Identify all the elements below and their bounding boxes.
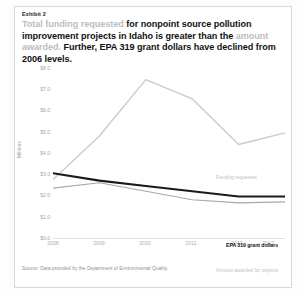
series-svg: [53, 68, 285, 238]
series-label-epa-grant: EPA 319 grant dollars: [226, 242, 278, 248]
y-axis-tick: $6.0: [24, 107, 50, 113]
y-axis-tick: $5.0: [24, 129, 50, 135]
y-axis-tick: $8.0: [24, 65, 50, 71]
series-line-amount-awarded: [53, 183, 285, 203]
x-axis-tick: 2008: [36, 240, 70, 246]
series-line-funding-requested: [53, 80, 285, 180]
series-label-funding-requested: Funding requested: [216, 174, 257, 180]
x-axis-tick: 2010: [128, 240, 162, 246]
headline-segment-funding-requested: Total funding requested: [22, 19, 124, 29]
y-axis-title: Millions: [17, 141, 22, 158]
exhibit-page: Exhibit 2 Total funding requested for no…: [0, 0, 304, 294]
y-axis-tick: $4.0: [24, 150, 50, 156]
y-axis-tick: $3.0: [24, 171, 50, 177]
x-axis-tick: 2011: [174, 240, 208, 246]
exhibit-number-label: Exhibit 2: [22, 11, 46, 17]
line-chart: Millions $8.0 $7.0 $6.0 $5.0 $4.0 $3.0 $…: [20, 62, 288, 258]
y-axis-tick: $2.0: [24, 192, 50, 198]
y-axis-tick: $7.0: [24, 86, 50, 92]
x-axis-tick: 2009: [82, 240, 116, 246]
y-axis-tick: $1.0: [24, 214, 50, 220]
plot-lines: [53, 68, 285, 238]
headline-segment-four: Further, EPA 319 grant dollars have decl…: [22, 42, 276, 64]
series-label-amount-awarded: Amount awarded for projects: [216, 267, 279, 273]
source-note: Source: Data provided by the Department …: [22, 266, 168, 271]
x-axis-line: [53, 238, 285, 239]
page-title: Total funding requested for nonpoint sou…: [22, 19, 288, 65]
